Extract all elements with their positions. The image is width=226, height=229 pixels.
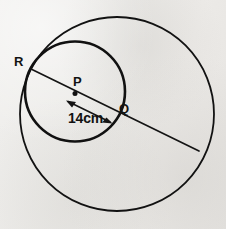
outer-circle [20,17,214,211]
geometry-figure: R P Q 14cm [0,0,226,229]
point-label-r: R [14,55,23,68]
point-label-p: P [73,75,82,88]
center-point-p [73,91,78,96]
dimension-label-14cm: 14cm [68,111,103,125]
point-label-q: Q [119,102,129,115]
diagram-canvas [0,0,226,229]
